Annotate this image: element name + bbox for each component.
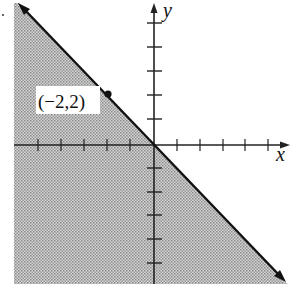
stray-mark (2, 14, 4, 16)
shaded-region-fill (14, 8, 282, 284)
inequality-graph: (−2,2) x y (0, 0, 292, 284)
point-label: (−2,2) (38, 91, 85, 113)
y-axis-label: y (161, 0, 172, 22)
x-axis-label: x (275, 143, 285, 165)
point-marker (104, 90, 111, 97)
